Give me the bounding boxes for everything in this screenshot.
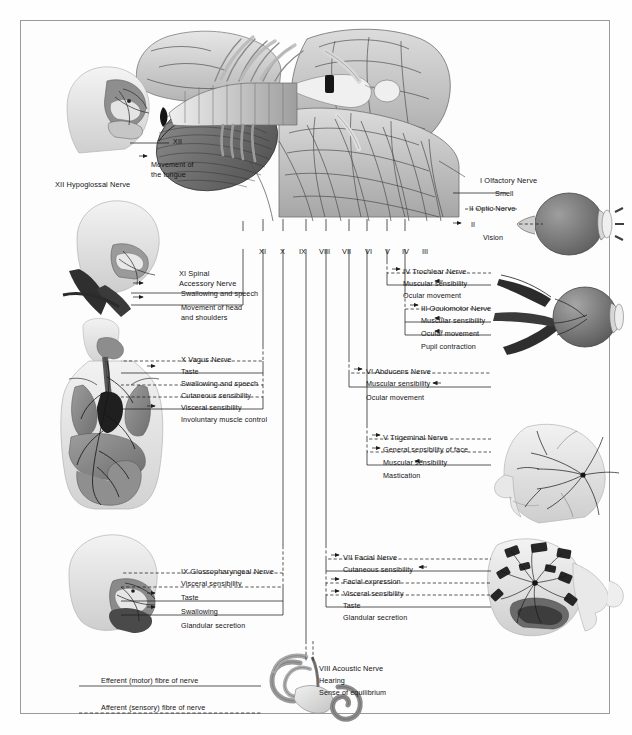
nerve-name-x: X Vagus Nerve — [181, 355, 231, 364]
ii-function-0: Vision — [483, 233, 503, 242]
figure-frame: XII Movement of the tongue XII Hypogloss… — [20, 20, 610, 714]
iv-function-0: Muscular sensibility — [403, 279, 467, 288]
v-function-0: General sensibility of face — [383, 445, 468, 454]
xii-function-0b: the tongue — [151, 170, 186, 179]
xi-function-1: Movement of head — [181, 303, 242, 312]
figure-page: XII Movement of the tongue XII Hypogloss… — [0, 0, 632, 735]
nerve-name-xi-line2: Accessory Nerve — [179, 279, 236, 288]
iii-function-1: Ocular movement — [421, 329, 479, 338]
viii-function-1: Sense of equilibrium — [319, 688, 386, 697]
v-function-2: Mastication — [383, 471, 420, 480]
nerve-name-xii: XII Hypoglossal Nerve — [55, 180, 130, 189]
viii-function-0: Hearing — [319, 676, 345, 685]
nerve-name-v: V Trigeminal Nerve — [383, 433, 448, 442]
vii-function-3: Taste — [343, 601, 361, 610]
numeral-vi: VI — [365, 247, 372, 256]
x-function-1: Swallowing and speech — [181, 379, 258, 388]
vii-function-4: Glandular secretion — [343, 613, 407, 622]
numeral-iv: IV — [402, 247, 409, 256]
i-function-0: Smell — [495, 189, 513, 198]
nerve-tag-xii: XII — [173, 137, 182, 146]
x-function-3: Visceral sensibility — [181, 403, 242, 412]
ix-function-1: Taste — [181, 593, 199, 602]
legend-item-afferent: Afferent (sensory) fibre of nerve — [101, 703, 205, 712]
nerve-name-ix: IX Glossopharyngeal Nerve — [181, 567, 274, 576]
nerve-name-iii: III Oculomotor Nerve — [421, 304, 491, 313]
nerve-name-xi-line1: XI Spinal — [179, 269, 209, 278]
numeral-ix: IX — [299, 247, 306, 256]
numeral-vii: VII — [342, 247, 351, 256]
nerve-tag-ii: II — [471, 220, 475, 229]
numeral-viii: VIII — [319, 247, 330, 256]
vii-function-0: Cutaneous sensibility — [343, 565, 413, 574]
x-function-0: Taste — [181, 367, 199, 376]
numeral-v: V — [385, 247, 390, 256]
vii-function-2: Visceral sensibility — [343, 589, 404, 598]
vii-function-1: Facial expression — [343, 577, 401, 586]
ix-function-0: Visceral sensibility — [181, 579, 242, 588]
vi-function-0: Muscular sensibility — [366, 379, 430, 388]
nerve-name-viii: VIII Acoustic Nerve — [319, 664, 383, 673]
v-function-1: Muscular sensibility — [383, 458, 447, 467]
vi-function-1: Ocular movement — [366, 393, 424, 402]
x-function-2: Cutaneous sensibility — [181, 391, 251, 400]
xi-function-1b: and shoulders — [181, 313, 227, 322]
ix-function-3: Glandular secretion — [181, 621, 245, 630]
legend-item-efferent: Efferent (motor) fibre of nerve — [101, 676, 198, 685]
iv-function-1: Ocular movement — [403, 291, 461, 300]
x-function-4: Involuntary muscle control — [181, 415, 267, 424]
nerve-connector-lines — [21, 21, 611, 715]
xi-function-0: Swallowing and speech — [181, 289, 258, 298]
nerve-name-vi: VI Abducens Nerve — [366, 367, 431, 376]
numeral-xi: XI — [259, 247, 266, 256]
numeral-x: X — [280, 247, 285, 256]
iii-function-2: Pupil contraction — [421, 342, 476, 351]
ix-function-2: Swallowing — [181, 607, 218, 616]
numeral-iii: III — [422, 247, 428, 256]
nerve-name-ii: II Optic Nerve — [469, 204, 516, 213]
nerve-name-iv: IV Trochlear Nerve — [403, 267, 466, 276]
nerve-name-vii: VII Facial Nerve — [343, 553, 397, 562]
iii-function-0: Muscular sensibility — [421, 316, 485, 325]
nerve-name-i: I Olfactory Nerve — [480, 176, 537, 185]
xii-function-0: Movement of — [151, 160, 194, 169]
